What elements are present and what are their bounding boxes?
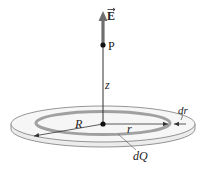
ring-width-label: dr [178, 104, 189, 116]
point-label: P [108, 39, 115, 53]
disk-radius-label: R [74, 117, 83, 131]
point-p [100, 42, 105, 47]
disk-center-dot [100, 121, 105, 126]
charged-disk-diagram: E P z R r dr dQ [0, 0, 206, 174]
field-label: E [107, 9, 115, 23]
ring-charge-label: dQ [133, 149, 148, 163]
ring-radius-label: r [127, 122, 132, 136]
height-label: z [104, 78, 110, 92]
